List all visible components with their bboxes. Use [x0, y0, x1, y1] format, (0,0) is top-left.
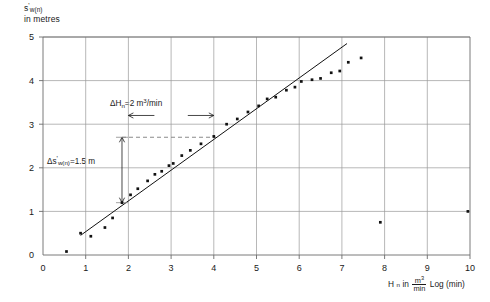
- y-axis-tick-label: 4: [29, 76, 34, 86]
- x-axis-tick-label: 1: [83, 263, 88, 273]
- data-point: [379, 221, 382, 224]
- y-axis-tick-label: 0: [29, 250, 34, 260]
- y-axis-tick-label: 2: [29, 163, 34, 173]
- x-axis-tick-label: 0: [40, 263, 45, 273]
- data-point: [121, 201, 124, 204]
- x-axis-tick-label: 5: [254, 263, 259, 273]
- y-axis-tick-label: 1: [29, 207, 34, 217]
- data-point: [89, 235, 92, 238]
- data-point: [168, 164, 171, 167]
- x-axis-tick-label: 8: [382, 263, 387, 273]
- data-point: [79, 232, 82, 235]
- data-point: [129, 193, 132, 196]
- data-point: [146, 180, 149, 183]
- data-point: [285, 89, 288, 92]
- plot-canvas: 012345678910012345: [0, 0, 490, 302]
- data-point: [104, 226, 107, 229]
- data-point: [65, 250, 68, 253]
- data-point: [467, 210, 470, 213]
- x-axis-tick-label: 9: [425, 263, 430, 273]
- data-point: [274, 96, 277, 99]
- data-point: [160, 170, 163, 173]
- data-point: [154, 173, 157, 176]
- x-axis-tick-label: 2: [126, 263, 131, 273]
- x-axis-tick-label: 10: [465, 263, 475, 273]
- y-axis-tick-label: 3: [29, 120, 34, 130]
- data-point: [200, 142, 203, 145]
- data-point: [300, 80, 303, 83]
- data-point: [266, 98, 269, 101]
- data-point: [360, 57, 363, 60]
- data-point: [236, 118, 239, 121]
- data-point: [225, 123, 228, 126]
- chart-root: s'w(n) in metres Hn in m3 min Log (min) …: [0, 0, 490, 302]
- data-point: [294, 86, 297, 89]
- data-point: [330, 71, 333, 74]
- y-axis-tick-label: 5: [29, 32, 34, 42]
- data-point: [247, 111, 250, 114]
- data-point: [111, 217, 114, 220]
- data-point: [180, 154, 183, 157]
- x-axis-tick-label: 3: [169, 263, 174, 273]
- x-axis-tick-label: 4: [211, 263, 216, 273]
- x-axis-tick-label: 6: [297, 263, 302, 273]
- data-point: [311, 78, 314, 81]
- data-point: [212, 135, 215, 138]
- data-point: [257, 105, 260, 108]
- data-point: [172, 162, 175, 165]
- x-axis-tick-label: 7: [339, 263, 344, 273]
- data-point: [347, 61, 350, 64]
- data-point: [338, 70, 341, 73]
- data-point: [189, 149, 192, 152]
- data-point: [319, 77, 322, 80]
- data-point: [136, 187, 139, 190]
